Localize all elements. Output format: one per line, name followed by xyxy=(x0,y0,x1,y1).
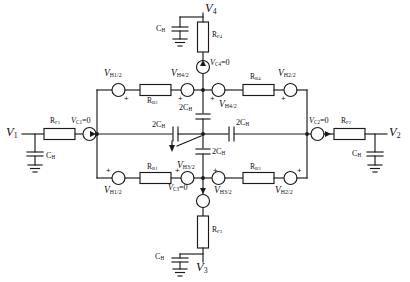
cap-label-2ch-right: 2CH xyxy=(236,119,249,127)
arrow-vc3-head xyxy=(200,188,206,194)
cap-label-2ch-bottom: 2CH xyxy=(212,148,225,156)
polarity-plus-vh1-top: + xyxy=(124,95,129,103)
resistor-rb1-body xyxy=(140,173,171,184)
resistor-label-rf3: RF3 xyxy=(212,226,222,235)
polarity-plus-vh3-right: + xyxy=(213,167,218,175)
source-label-vc3: VC3=0 xyxy=(168,184,188,192)
polarity-plus-vh2-top: + xyxy=(281,95,286,103)
node-top xyxy=(201,88,205,92)
source-vh1-bottom-body xyxy=(112,172,125,185)
resistor-label-rf2: RF2 xyxy=(341,117,351,126)
circuit-figure: V1 V2 V3 V4 RF1 RF2 RF3 RF4 RB2 RB4 RB1 … xyxy=(0,0,410,282)
resistor-label-rf4: RF4 xyxy=(212,31,222,40)
polarity-plus-vh4-left: + xyxy=(178,95,183,103)
resistor-rf1-body xyxy=(44,129,75,140)
resistor-rb2-body xyxy=(140,85,171,96)
cap-label-ch-v4: CH xyxy=(156,25,165,33)
cap-label-ch-v3: CH xyxy=(155,253,164,261)
source-label-vh3-right: VH3/2 xyxy=(214,186,232,196)
source-label-vh2-bottom: VH2/2 xyxy=(275,186,293,196)
source-label-vh1-top: VH1/2 xyxy=(104,69,122,79)
source-vc3-body xyxy=(197,195,210,208)
node-bottom xyxy=(201,176,205,180)
source-vh2-bottom-body xyxy=(284,172,297,185)
source-label-vh2-top: VH2/2 xyxy=(278,69,296,79)
port-label-v4: V4 xyxy=(205,2,217,15)
source-label-vh4-left: VH4/2 xyxy=(171,69,189,79)
resistor-rf2-body xyxy=(334,129,365,140)
source-label-vc2: VC2=0 xyxy=(309,117,329,125)
node-left-bus xyxy=(95,132,99,136)
resistor-label-rb4: RB4 xyxy=(250,73,261,82)
source-label-vh1-bottom: VH1/2 xyxy=(104,186,122,196)
cap-label-2ch-top: 2CH xyxy=(179,104,192,112)
arrow-vc2-head xyxy=(325,131,331,137)
cap-label-2ch-left: 2CH xyxy=(152,121,165,129)
source-vc2-body xyxy=(311,128,324,141)
resistor-label-rb1: RB1 xyxy=(147,163,158,172)
resistor-label-rb3: RB3 xyxy=(250,163,261,172)
port-label-v3: V3 xyxy=(196,261,208,274)
node-right-bus xyxy=(305,132,309,136)
resistor-rf3-body xyxy=(198,216,209,248)
source-label-vc1: VC1=0 xyxy=(71,117,91,125)
polarity-plus-vh4-right: + xyxy=(210,95,215,103)
arrow-center-diagonal-head xyxy=(169,145,175,152)
source-label-vc4: VC4=0 xyxy=(210,59,230,67)
port-label-v2: V2 xyxy=(389,126,401,139)
resistor-label-rf1: RF1 xyxy=(50,117,60,126)
resistor-rb3-body xyxy=(243,173,274,184)
cap-label-ch-v2: CH xyxy=(352,150,361,158)
source-label-vh4-right: VH4/2 xyxy=(219,100,237,110)
schematic-canvas xyxy=(0,0,410,282)
resistor-rf4-body xyxy=(198,22,209,52)
polarity-plus-vh1-bottom: + xyxy=(106,167,111,175)
node-center xyxy=(201,132,205,136)
resistor-label-rb2: RB2 xyxy=(147,97,158,106)
port-label-v1: V1 xyxy=(6,126,18,139)
polarity-plus-vh3-left: + xyxy=(175,167,180,175)
cap-label-ch-v1: CH xyxy=(46,152,55,160)
polarity-plus-vh2-bottom: + xyxy=(297,167,302,175)
arrow-center-diagonal-shaft xyxy=(177,136,201,146)
resistor-rb4-body xyxy=(243,85,274,96)
